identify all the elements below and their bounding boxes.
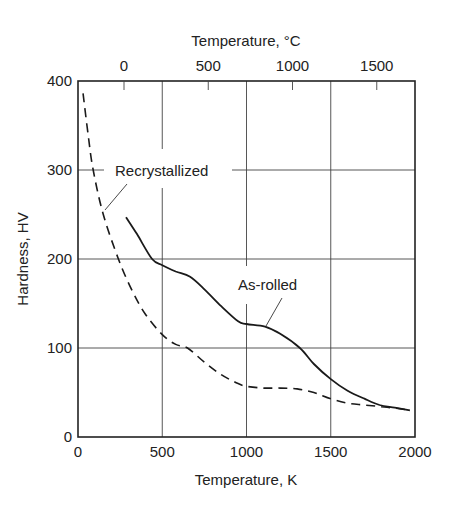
y-tick-label: 100 (47, 339, 72, 356)
x-tick-label: 1000 (230, 443, 263, 460)
y-axis-title: Hardness, HV (14, 212, 31, 305)
as-rolled-label: As-rolled (238, 276, 297, 293)
y-tick-label: 0 (64, 428, 72, 445)
gridlines (78, 81, 415, 437)
celsius-tick-label: 1000 (276, 57, 309, 74)
recrystallized-leader (105, 184, 127, 210)
celsius-tick-label: 1500 (360, 57, 393, 74)
celsius-tick-label: 500 (196, 57, 221, 74)
celsius-tick-label: 0 (120, 57, 128, 74)
x-tick-label: 2000 (398, 443, 431, 460)
recrystallized-label: Recrystallized (115, 162, 208, 179)
x-tick-label: 500 (150, 443, 175, 460)
hardness-vs-temperature-chart: 0500100015000500100015002000010020030040… (0, 0, 449, 507)
x-axis-title: Temperature, K (195, 471, 298, 488)
as-rolled-curve (126, 217, 410, 410)
tick-labels: 0500100015000500100015002000010020030040… (47, 57, 432, 460)
x2-axis-title: Temperature, °C (191, 32, 301, 49)
y-tick-label: 400 (47, 72, 72, 89)
y-tick-label: 300 (47, 161, 72, 178)
x-tick-label: 0 (74, 443, 82, 460)
x-tick-label: 1500 (314, 443, 347, 460)
y-tick-label: 200 (47, 250, 72, 267)
